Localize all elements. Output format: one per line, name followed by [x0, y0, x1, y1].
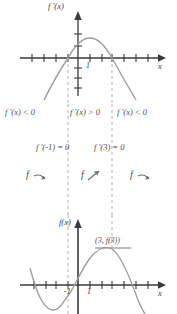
zero-left: f '(-1) = 0: [36, 143, 69, 152]
bottom-y-axis-label: f(x): [59, 218, 71, 227]
figure-svg: [0, 0, 177, 314]
bottom-y-axis-arrowhead: [74, 219, 81, 228]
sign-middle: f '(x) > 0: [70, 108, 100, 117]
sign-left: f '(x) < 0: [5, 108, 35, 117]
bottom-x-axis-label: x: [158, 289, 162, 298]
top-tick-label-one: 1: [86, 62, 90, 70]
function-curve: [30, 247, 145, 314]
top-x-axis-label: x: [158, 62, 162, 71]
monotonic-middle-letter: f: [81, 170, 84, 180]
bottom-graph-group: [20, 215, 166, 314]
bottom-tick-label-neg-one: -1: [64, 288, 71, 296]
calculus-figure: f '(x) x 1 f '(x) < 0 f '(x) > 0 f '(x) …: [0, 0, 177, 314]
point-label: (3, f(3)): [95, 237, 120, 245]
top-y-axis-arrowhead: [74, 11, 81, 20]
derivative-curve: [44, 38, 136, 100]
monotonic-left-letter: f: [26, 170, 29, 180]
top-graph-group: [20, 11, 166, 104]
top-y-axis-label: f '(x): [48, 2, 64, 11]
sign-right: f '(x) < 0: [117, 108, 147, 117]
bottom-tick-label-one: 1: [87, 288, 91, 296]
zero-right: f '(3) = 0: [94, 143, 124, 152]
monotonic-right-letter: f: [130, 170, 133, 180]
